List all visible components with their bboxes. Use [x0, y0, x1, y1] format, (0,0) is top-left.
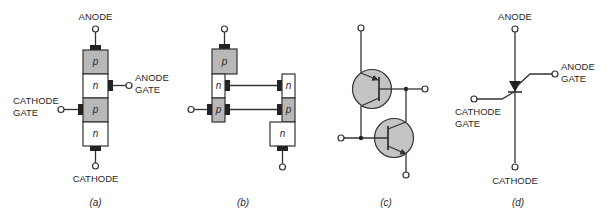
anode-gate-terminal	[126, 83, 132, 89]
panel-b-split-structure: p n p n p n (b)	[188, 26, 295, 208]
layer-label: n	[286, 80, 292, 91]
scs-diagram: ANODE p n p n ANODE GATE CATHODE GATE CA…	[0, 0, 611, 220]
cathode-terminal	[512, 164, 518, 170]
anode-contact	[90, 45, 101, 50]
layer-label: p	[92, 56, 99, 67]
cathode-label: CATHODE	[73, 173, 119, 184]
cathode-gate-label: CATHODE	[455, 106, 501, 117]
caption-d: (d)	[512, 197, 524, 208]
anode-gate-terminal	[552, 71, 558, 77]
layer-label: n	[93, 128, 99, 139]
anode-terminal	[222, 26, 228, 32]
cathode-terminal	[280, 164, 286, 170]
caption-b: (b)	[237, 197, 249, 208]
cathode-gate-terminal	[471, 96, 477, 102]
panel-a-four-layer-structure: ANODE p n p n ANODE GATE CATHODE GATE CA…	[13, 11, 169, 208]
layer-label: n	[280, 128, 286, 139]
cathode-terminal	[93, 163, 99, 169]
panel-d-scs-symbol: ANODE ANODE GATE CATHODE GATE CATHODE (d…	[455, 11, 595, 208]
cathode-contact	[90, 146, 101, 151]
layer-label: p	[285, 104, 292, 115]
layer-label: p	[215, 104, 222, 115]
cathode-gate-terminal	[58, 107, 64, 113]
caption-a: (a)	[89, 197, 101, 208]
caption-c: (c)	[380, 197, 392, 208]
anode-gate-label: GATE	[561, 73, 586, 84]
anode-gate-label: GATE	[135, 84, 160, 95]
cathode-gate-label: GATE	[455, 118, 480, 129]
cathode-terminal	[403, 172, 409, 178]
cathode-gate-terminal	[188, 107, 194, 113]
anode-label: ANODE	[79, 11, 113, 22]
layer-label: p	[221, 56, 228, 67]
layer-label: n	[93, 80, 99, 91]
cathode-gate-contact	[78, 104, 83, 115]
anode-terminal	[358, 25, 364, 31]
cathode-gate-label: CATHODE	[13, 95, 59, 106]
anode-gate-label: ANODE	[135, 72, 169, 83]
anode-terminal	[512, 26, 518, 32]
cathode-gate-terminal	[338, 135, 344, 141]
anode-gate-label: ANODE	[561, 61, 595, 72]
layer-label: n	[216, 80, 222, 91]
panel-c-transistor-equivalent: (c)	[338, 25, 428, 208]
cathode-label: CATHODE	[492, 175, 538, 186]
anode-terminal	[93, 26, 99, 32]
layer-label: p	[92, 104, 99, 115]
diode-triangle	[509, 81, 521, 92]
anode-gate-contact	[108, 80, 113, 91]
anode-gate-terminal	[422, 86, 428, 92]
anode-label: ANODE	[498, 11, 532, 22]
cathode-gate-label: GATE	[13, 107, 38, 118]
